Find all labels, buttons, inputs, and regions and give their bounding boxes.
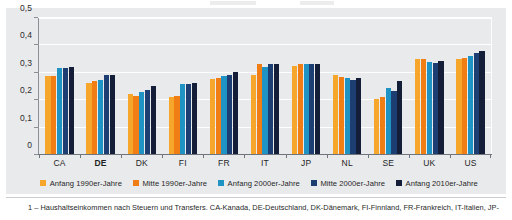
x-axis-labels: CADEDKFIFRITJPNLSEUKUS [39, 158, 491, 170]
x-axis-label-se: SE [368, 158, 409, 170]
chart-legend: Anfang 1990er-JahreMitte 1990er-JahreAnf… [20, 176, 498, 190]
legend-item[interactable]: Anfang 1990er-Jahre [40, 179, 122, 188]
cropped-header-sliver [0, 0, 512, 8]
bar-group-nl [327, 18, 368, 154]
bar [45, 76, 50, 154]
bar-groups [39, 18, 491, 154]
bar [133, 96, 138, 154]
bar [415, 59, 420, 154]
bar [391, 91, 396, 154]
bar [433, 63, 438, 154]
bar [192, 83, 197, 154]
legend-swatch-icon [133, 180, 139, 186]
bar [474, 53, 479, 154]
y-tick-label: 0 [27, 140, 32, 150]
bar [397, 81, 402, 154]
bar [374, 99, 379, 154]
legend-label: Mitte 1990er-Jahre [142, 179, 207, 188]
bar [51, 76, 56, 154]
bar [421, 59, 426, 154]
y-tick-label: 0,5 [20, 3, 32, 13]
legend-swatch-icon [40, 180, 46, 186]
bar [169, 97, 174, 154]
bar [180, 84, 185, 154]
bar [57, 68, 62, 154]
bar-group-us [450, 18, 491, 154]
legend-item[interactable]: Mitte 1990er-Jahre [133, 179, 207, 188]
footnote-divider [6, 197, 506, 198]
bar-group-uk [409, 18, 450, 154]
bar [257, 64, 262, 154]
bar [468, 56, 473, 154]
y-tick-mark [34, 99, 38, 100]
bar [350, 80, 355, 154]
x-axis-label-de: DE [80, 158, 121, 170]
legend-label: Anfang 1990er-Jahre [50, 179, 122, 188]
bar [110, 75, 115, 154]
bar-group-de [80, 18, 121, 154]
bar [479, 51, 484, 154]
x-axis-label-it: IT [244, 158, 285, 170]
bar [262, 67, 267, 154]
bar [174, 96, 179, 154]
bar [462, 58, 467, 154]
y-tick-label: 0,3 [20, 58, 32, 68]
bar [98, 80, 103, 154]
bar [69, 67, 74, 154]
footnote-text: 1 – Haushaltseinkommen nach Steuern und … [28, 203, 506, 212]
bar-group-it [244, 18, 285, 154]
y-tick-mark [34, 17, 38, 18]
bar-group-fi [162, 18, 203, 154]
y-tick-mark [34, 127, 38, 128]
bar [292, 66, 297, 154]
bar-group-ca [39, 18, 80, 154]
bar [456, 59, 461, 154]
y-tick-mark [34, 72, 38, 73]
chart-panel: 00,10,20,30,40,5 CADEDKFIFRITJPNLSEUKUS … [6, 8, 506, 194]
x-axis-label-ca: CA [39, 158, 80, 170]
bar-group-dk [121, 18, 162, 154]
y-tick-label: 0,4 [20, 30, 32, 40]
bar [186, 84, 191, 154]
bar [233, 72, 238, 154]
bar [356, 78, 361, 154]
bar [298, 64, 303, 154]
bar [274, 64, 279, 154]
plot-border-right [491, 18, 492, 155]
legend-label: Anfang 2010er-Jahre [406, 179, 478, 188]
bar-group-fr [203, 18, 244, 154]
x-axis-label-fr: FR [203, 158, 244, 170]
x-axis-label-jp: JP [286, 158, 327, 170]
bar-group-se [368, 18, 409, 154]
bar [268, 64, 273, 154]
y-tick-mark [34, 44, 38, 45]
x-axis-label-nl: NL [327, 158, 368, 170]
bar [128, 94, 133, 154]
bar [386, 88, 391, 154]
y-tick-label: 0,1 [20, 113, 32, 123]
bar [92, 81, 97, 154]
bar [251, 75, 256, 154]
plot-area: 00,10,20,30,40,5 [38, 18, 492, 155]
bar [309, 64, 314, 154]
bar [227, 75, 232, 154]
x-axis-label-uk: UK [409, 158, 450, 170]
bar [345, 78, 350, 154]
bar [380, 97, 385, 154]
legend-item[interactable]: Anfang 2010er-Jahre [396, 179, 478, 188]
bar [221, 76, 226, 154]
bar [63, 68, 68, 154]
bar-group-jp [286, 18, 327, 154]
legend-item[interactable]: Anfang 2000er-Jahre [218, 179, 300, 188]
bar [104, 75, 109, 154]
bar [210, 79, 215, 154]
legend-label: Anfang 2000er-Jahre [228, 179, 300, 188]
bar [339, 77, 344, 154]
bar [139, 92, 144, 154]
x-axis-label-fi: FI [162, 158, 203, 170]
bar [333, 75, 338, 154]
bar [216, 78, 221, 154]
legend-item[interactable]: Mitte 2000er-Jahre [311, 179, 385, 188]
y-tick-mark [34, 154, 38, 155]
bar [304, 64, 309, 154]
